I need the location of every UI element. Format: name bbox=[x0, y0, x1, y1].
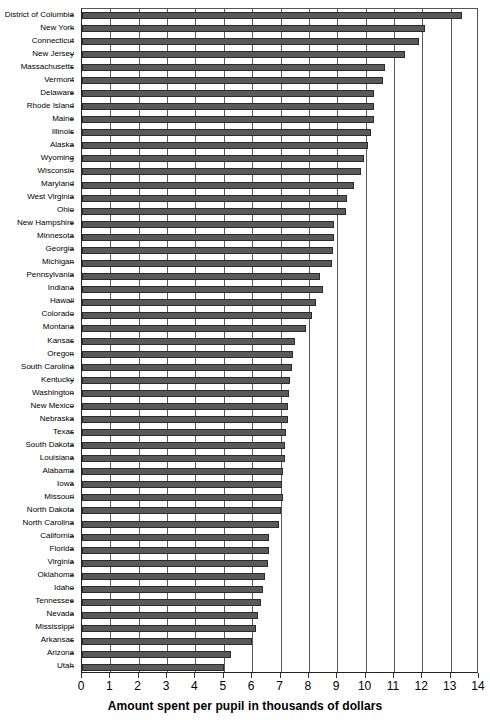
bar bbox=[82, 403, 288, 410]
category-label: New Jersey bbox=[32, 49, 74, 58]
value-axis-tick bbox=[421, 673, 422, 678]
value-axis-tick-label: 11 bbox=[381, 679, 405, 693]
bar bbox=[82, 25, 425, 32]
category-axis-tick bbox=[70, 666, 74, 667]
category-axis-tick bbox=[70, 236, 74, 237]
value-axis-tick bbox=[336, 673, 337, 678]
value-axis-tick-label: 8 bbox=[296, 679, 320, 693]
bar-row bbox=[82, 361, 477, 374]
bar-row bbox=[82, 139, 477, 152]
category-label: South Carolina bbox=[21, 362, 74, 371]
bar bbox=[82, 625, 256, 632]
category-axis-tick bbox=[70, 393, 74, 394]
value-axis-tick bbox=[223, 673, 224, 678]
bar-row bbox=[82, 309, 477, 322]
bar-row bbox=[82, 100, 477, 113]
bar bbox=[82, 351, 293, 358]
bar bbox=[82, 377, 290, 384]
bar bbox=[82, 494, 283, 501]
bar bbox=[82, 468, 283, 475]
bar bbox=[82, 599, 261, 606]
category-label: Mississippi bbox=[35, 622, 74, 631]
category-axis-tick bbox=[70, 549, 74, 550]
category-axis-tick bbox=[70, 653, 74, 654]
category-axis-tick bbox=[70, 106, 74, 107]
bar-row bbox=[82, 465, 477, 478]
bar-row bbox=[82, 413, 477, 426]
category-label: Massachusetts bbox=[21, 62, 74, 71]
category-label: Louisiana bbox=[40, 453, 74, 462]
bar-row bbox=[82, 322, 477, 335]
value-axis-tick bbox=[308, 673, 309, 678]
value-axis-tick bbox=[280, 673, 281, 678]
category-label: Oklahoma bbox=[38, 570, 74, 579]
category-label: Washington bbox=[32, 388, 74, 397]
bar-row bbox=[82, 296, 477, 309]
bar-row bbox=[82, 165, 477, 178]
bar-row bbox=[82, 557, 477, 570]
bar-row bbox=[82, 113, 477, 126]
category-axis-tick bbox=[70, 28, 74, 29]
value-axis-tick-label: 2 bbox=[126, 679, 150, 693]
bar-row bbox=[82, 439, 477, 452]
bar bbox=[82, 273, 320, 280]
category-axis-tick bbox=[70, 406, 74, 407]
value-axis-tick-label: 4 bbox=[182, 679, 206, 693]
bar bbox=[82, 142, 368, 149]
value-axis-tick bbox=[109, 673, 110, 678]
bar bbox=[82, 638, 252, 645]
bar bbox=[82, 455, 285, 462]
category-axis-tick bbox=[70, 119, 74, 120]
category-axis-tick bbox=[70, 367, 74, 368]
bar-row bbox=[82, 9, 477, 22]
bar-row bbox=[82, 218, 477, 231]
bar-row bbox=[82, 74, 477, 87]
category-axis-tick bbox=[70, 523, 74, 524]
value-axis-tick-label: 1 bbox=[97, 679, 121, 693]
category-axis-labels: District of ColumbiaNew YorkConnecticutN… bbox=[0, 8, 74, 673]
bar-row bbox=[82, 231, 477, 244]
bar-row bbox=[82, 152, 477, 165]
bar bbox=[82, 390, 289, 397]
bar-row bbox=[82, 87, 477, 100]
category-axis-tick bbox=[70, 80, 74, 81]
value-axis-tick bbox=[194, 673, 195, 678]
category-label: Tennessee bbox=[35, 596, 74, 605]
bar bbox=[82, 260, 332, 267]
bar bbox=[82, 234, 334, 241]
category-label: New York bbox=[40, 23, 74, 32]
category-axis-tick bbox=[70, 640, 74, 641]
bar-row bbox=[82, 531, 477, 544]
bar bbox=[82, 51, 405, 58]
bar bbox=[82, 664, 224, 671]
bar bbox=[82, 38, 419, 45]
bar-row bbox=[82, 205, 477, 218]
bar-row bbox=[82, 335, 477, 348]
category-axis-tick bbox=[70, 301, 74, 302]
category-axis-tick bbox=[70, 145, 74, 146]
bar-row bbox=[82, 544, 477, 557]
value-axis-tick-labels: 01234567891011121314 bbox=[81, 679, 478, 695]
bar bbox=[82, 182, 354, 189]
bar bbox=[82, 168, 361, 175]
category-label: California bbox=[40, 531, 74, 540]
category-axis-tick bbox=[70, 41, 74, 42]
category-axis-tick bbox=[70, 210, 74, 211]
value-axis-tick-label: 0 bbox=[69, 679, 93, 693]
value-axis-tick bbox=[365, 673, 366, 678]
category-axis-tick bbox=[70, 575, 74, 576]
category-axis-tick bbox=[70, 510, 74, 511]
bar bbox=[82, 481, 282, 488]
bar-row bbox=[82, 426, 477, 439]
value-axis-tick-label: 14 bbox=[466, 679, 490, 693]
category-label: South Dakota bbox=[26, 440, 74, 449]
bar bbox=[82, 651, 231, 658]
bar-row bbox=[82, 192, 477, 205]
bar-row bbox=[82, 244, 477, 257]
bar-row bbox=[82, 609, 477, 622]
category-axis-tick bbox=[70, 419, 74, 420]
category-axis-tick bbox=[70, 223, 74, 224]
category-axis-tick bbox=[70, 262, 74, 263]
category-label: Wyoming bbox=[41, 153, 74, 162]
bar bbox=[82, 64, 385, 71]
